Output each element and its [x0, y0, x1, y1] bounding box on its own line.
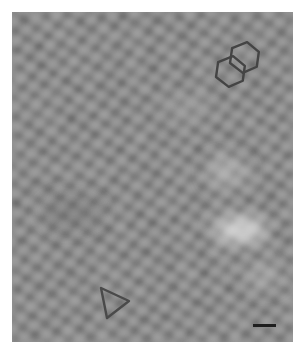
micrograph-image — [12, 12, 293, 342]
scale-bar — [12, 12, 293, 342]
